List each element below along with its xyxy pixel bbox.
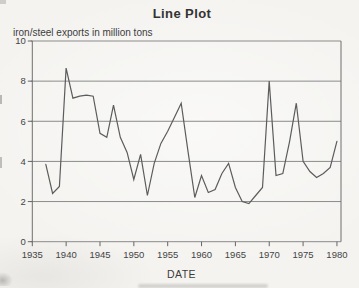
x-axis-label: DATE <box>4 268 359 280</box>
data-line <box>46 68 337 204</box>
y-tick-label: 6 <box>21 116 26 127</box>
x-tick-label: 1955 <box>157 249 178 260</box>
x-tick-marks <box>32 242 337 247</box>
data-series <box>46 68 337 204</box>
x-tick-labels: 1935194019451950195519601965197019751980 <box>22 249 348 260</box>
y-tick-label: 4 <box>21 156 26 167</box>
scan-edge-mark <box>0 95 2 104</box>
y-tick-marks <box>28 41 33 242</box>
y-tick-label: 0 <box>21 236 26 247</box>
x-tick-label: 1940 <box>56 249 77 260</box>
x-tick-label: 1945 <box>89 249 110 260</box>
x-tick-label: 1935 <box>22 249 43 260</box>
x-tick-label: 1970 <box>259 249 280 260</box>
scan-edge-mark <box>0 157 2 168</box>
x-tick-label: 1960 <box>191 249 212 260</box>
y-tick-label: 8 <box>21 75 26 86</box>
scan-edge-mark <box>0 0 6 4</box>
gridlines <box>31 41 341 242</box>
scan-smudge-corner <box>0 272 13 286</box>
x-tick-label: 1975 <box>293 249 314 260</box>
y-tick-labels: 0246810 <box>15 35 26 247</box>
chart-svg: 0246810 19351940194519501955196019651970… <box>0 0 359 288</box>
x-tick-label: 1980 <box>326 249 347 260</box>
x-tick-label: 1950 <box>123 249 144 260</box>
x-tick-label: 1965 <box>225 249 246 260</box>
y-tick-label: 10 <box>15 35 26 46</box>
scan-smudge-bottom <box>138 284 268 288</box>
chart-figure: Line Plot iron/steel exports in million … <box>0 0 359 288</box>
y-tick-label: 2 <box>21 196 26 207</box>
